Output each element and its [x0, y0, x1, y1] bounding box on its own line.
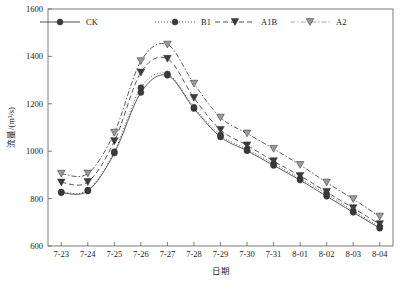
y-axis-tick-labels: 6008001000120014001600 [26, 4, 43, 251]
x-tick-label: 7-23 [53, 249, 69, 259]
flow-rate-line-chart: 6008001000120014001600 7-237-247-257-267… [0, 0, 403, 286]
x-tick-label: 8-02 [319, 249, 335, 259]
x-axis-ticks [61, 242, 379, 246]
x-axis-title: 日期 [212, 266, 230, 276]
y-tick-label: 1600 [26, 4, 43, 14]
x-tick-label: 8-03 [345, 249, 361, 259]
x-tick-label: 8-01 [292, 249, 308, 259]
data-point-b1-7-24 [85, 187, 91, 193]
legend-marker-ck [57, 19, 63, 25]
x-axis-tick-labels: 7-237-247-257-267-277-287-297-307-318-01… [53, 249, 388, 259]
data-point-a2-8-04 [376, 213, 384, 220]
y-tick-label: 1400 [26, 51, 43, 61]
legend-label-ck: CK [86, 17, 99, 27]
data-point-a2-7-24 [84, 170, 92, 177]
chart-legend: CKB1A1BA2 [40, 17, 346, 27]
data-point-a2-7-28 [190, 80, 198, 87]
x-tick-label: 7-29 [213, 249, 229, 259]
x-tick-label: 7-24 [80, 249, 96, 259]
x-tick-label: 7-26 [133, 249, 149, 259]
data-point-a2-7-26 [137, 58, 145, 65]
y-tick-label: 600 [30, 241, 43, 251]
data-point-a1b-7-28 [190, 94, 198, 101]
data-point-b1-7-26 [138, 85, 144, 91]
chart-canvas: 6008001000120014001600 7-237-247-257-267… [0, 0, 403, 286]
x-tick-label: 7-27 [160, 249, 176, 259]
x-tick-label: 8-04 [372, 249, 388, 259]
legend-label-a1b: A1B [261, 17, 277, 27]
data-point-b1-7-27 [164, 71, 170, 77]
legend-label-b1: B1 [201, 17, 211, 27]
y-axis-title: 流量/(m³/s) [6, 107, 16, 148]
x-tick-label: 7-28 [186, 249, 202, 259]
data-point-a2-8-03 [349, 196, 357, 203]
data-point-b1-7-23 [58, 189, 64, 195]
data-point-a2-8-02 [323, 179, 331, 186]
data-point-b1-7-25 [111, 149, 117, 155]
data-point-a1b-7-26 [137, 69, 145, 76]
y-tick-label: 1200 [26, 99, 43, 109]
data-markers-group [57, 41, 383, 231]
x-tick-label: 7-25 [107, 249, 123, 259]
data-point-a2-7-30 [243, 130, 251, 137]
series-line-b1 [61, 73, 379, 227]
x-tick-label: 7-30 [239, 249, 255, 259]
data-point-a1b-7-24 [84, 179, 92, 186]
legend-marker-b1 [172, 19, 178, 25]
data-point-a2-8-01 [296, 162, 304, 169]
y-axis-ticks [48, 9, 52, 246]
data-point-a2-7-27 [164, 41, 172, 48]
data-point-b1-7-28 [191, 104, 197, 110]
data-point-a2-7-31 [270, 145, 278, 152]
y-tick-label: 800 [30, 194, 43, 204]
x-tick-label: 7-31 [266, 249, 282, 259]
legend-label-a2: A2 [336, 17, 346, 27]
data-point-a1b-7-25 [111, 138, 119, 145]
y-tick-label: 1000 [26, 146, 43, 156]
